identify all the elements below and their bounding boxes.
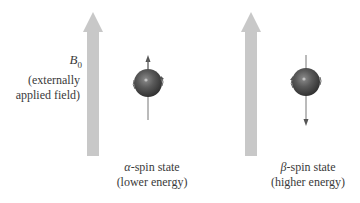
field-symbol-label: B0 [58,52,82,73]
alpha-state-label: α-spin state (lower energy) [97,160,207,190]
alpha-label-suffix: -spin state [131,160,180,174]
beta-state-label: β-spin state (higher energy) [253,160,360,190]
field-subscript: 0 [78,60,83,70]
field-arrow-left [83,12,103,156]
alpha-spin-nucleus [133,55,164,120]
field-arrow-right [241,12,261,156]
beta-label-suffix: -spin state [286,160,335,174]
field-symbol: B [70,52,78,67]
beta-state-title: β-spin state [253,160,360,175]
field-description-line2: applied field) [4,88,80,103]
beta-energy-label: (higher energy) [253,175,360,190]
field-description: (externally applied field) [4,73,80,103]
alpha-state-title: α-spin state [97,160,207,175]
field-description-line1: (externally [4,73,80,88]
alpha-energy-label: (lower energy) [97,175,207,190]
beta-spin-nucleus [290,55,321,126]
